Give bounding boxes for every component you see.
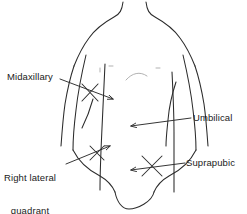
- label-umbilical: Umbilical: [193, 112, 232, 123]
- left-oblique-crease: [82, 99, 93, 128]
- suprapubic-leader-line: [131, 163, 185, 170]
- right-arm-inner-outline: [195, 66, 208, 146]
- perineum-outline: [115, 192, 154, 209]
- label-midaxillary: Midaxillary: [7, 71, 53, 82]
- label-suprapubic: Suprapubic: [186, 157, 235, 168]
- torso-faint-markings: [100, 66, 160, 80]
- right-neck-shoulder-outline: [146, 2, 195, 66]
- costal-arch-mark: [126, 73, 147, 80]
- leader-lines: [60, 79, 191, 170]
- left-neck-shoulder-outline: [74, 2, 123, 66]
- anatomical-diagram: Midaxillary Right lateral quadrant Umbil…: [0, 0, 247, 214]
- torso-outline: [61, 2, 208, 209]
- left-arm-inner-outline: [61, 66, 74, 146]
- label-right-lateral-quadrant-line1: Right lateral: [4, 172, 56, 183]
- umbilical-leader-line: [131, 118, 191, 126]
- label-right-lateral-quadrant-line2: quadrant: [4, 205, 56, 214]
- landmark-marks: [82, 84, 162, 176]
- left-flank-contour: [73, 55, 86, 150]
- label-right-lateral-quadrant: Right lateral quadrant: [4, 150, 56, 214]
- left-midclavicular-line: [100, 64, 105, 190]
- right-flank-contour: [183, 55, 196, 150]
